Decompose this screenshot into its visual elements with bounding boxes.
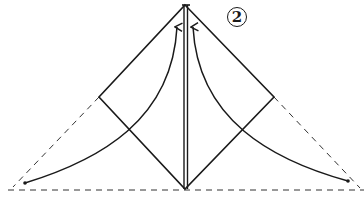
left-dashed-flap-edge	[13, 97, 99, 187]
right-arrow-start-dot	[346, 179, 350, 183]
right-curved-fold-arrow	[193, 27, 348, 181]
square-diamond-outline	[99, 5, 274, 189]
left-curved-fold-arrow	[25, 27, 177, 183]
origami-diagram	[0, 0, 364, 197]
right-dashed-flap-edge	[274, 97, 360, 188]
step-number-circle: 2	[227, 7, 247, 27]
step-number: 2	[232, 10, 242, 25]
left-arrow-start-dot	[23, 181, 27, 185]
